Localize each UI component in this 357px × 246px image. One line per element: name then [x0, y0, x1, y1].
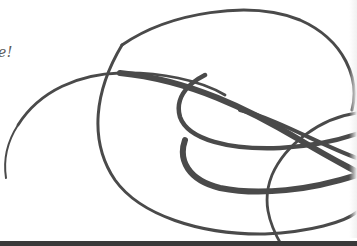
swirl-left-tail — [5, 125, 18, 178]
bottom-border-bar — [0, 241, 357, 246]
page-edge-shadow — [349, 0, 357, 238]
swirl-large-oval — [122, 10, 354, 110]
swirl-thick-diagonal — [120, 73, 357, 172]
swirl-flourish-graphic — [0, 0, 357, 246]
decorative-swirl-canvas: e! — [0, 0, 357, 246]
